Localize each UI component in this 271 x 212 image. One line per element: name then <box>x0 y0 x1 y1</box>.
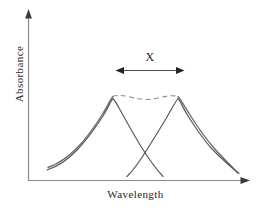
envelope-left-flank <box>48 97 113 168</box>
absorbance-spectrum-figure: X Absorbance Wavelength <box>0 0 271 212</box>
envelope-right-flank <box>178 97 238 174</box>
component-band-2 <box>127 99 239 177</box>
peak-separation-label: X <box>130 50 170 65</box>
span-arrow-left-head <box>116 67 125 74</box>
x-axis-label: Wavelength <box>0 188 271 200</box>
y-axis-arrowhead <box>25 9 32 19</box>
y-axis-label: Absorbance <box>13 19 25 129</box>
envelope-dashed-valley <box>113 95 179 99</box>
x-axis <box>29 177 251 184</box>
span-arrow-right-head <box>176 67 185 74</box>
plot-canvas <box>0 0 271 212</box>
x-axis-arrowhead <box>241 177 251 184</box>
y-axis <box>25 9 32 181</box>
peak-separation-arrow <box>116 67 185 74</box>
